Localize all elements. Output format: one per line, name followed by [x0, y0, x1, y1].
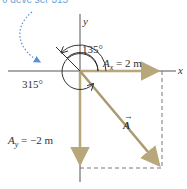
annotation-text: θ deve ser 315°: [2, 0, 72, 5]
y-axis-label: y: [83, 16, 88, 27]
annotation-dotted-arc: [20, 12, 40, 62]
angle-315-label: 315°: [22, 79, 43, 90]
vector-diagram: [0, 0, 187, 189]
ay-value: = −2 m: [21, 134, 53, 146]
direction-135-line: [56, 47, 80, 71]
ax-symbol: A: [103, 57, 110, 69]
x-axis-label: x: [178, 65, 183, 76]
ay-label: Ay = −2 m: [8, 135, 53, 149]
angle-135-label: 135°: [82, 44, 103, 55]
vector-arrow-symbol: →: [124, 112, 133, 121]
ax-label: Ax = 2 m: [103, 58, 142, 72]
ay-symbol: A: [8, 134, 15, 146]
vector-a-label: → A: [123, 120, 130, 131]
ay-subscript: y: [15, 140, 19, 149]
ax-subscript: x: [110, 63, 114, 72]
ax-value: = 2 m: [116, 57, 142, 69]
